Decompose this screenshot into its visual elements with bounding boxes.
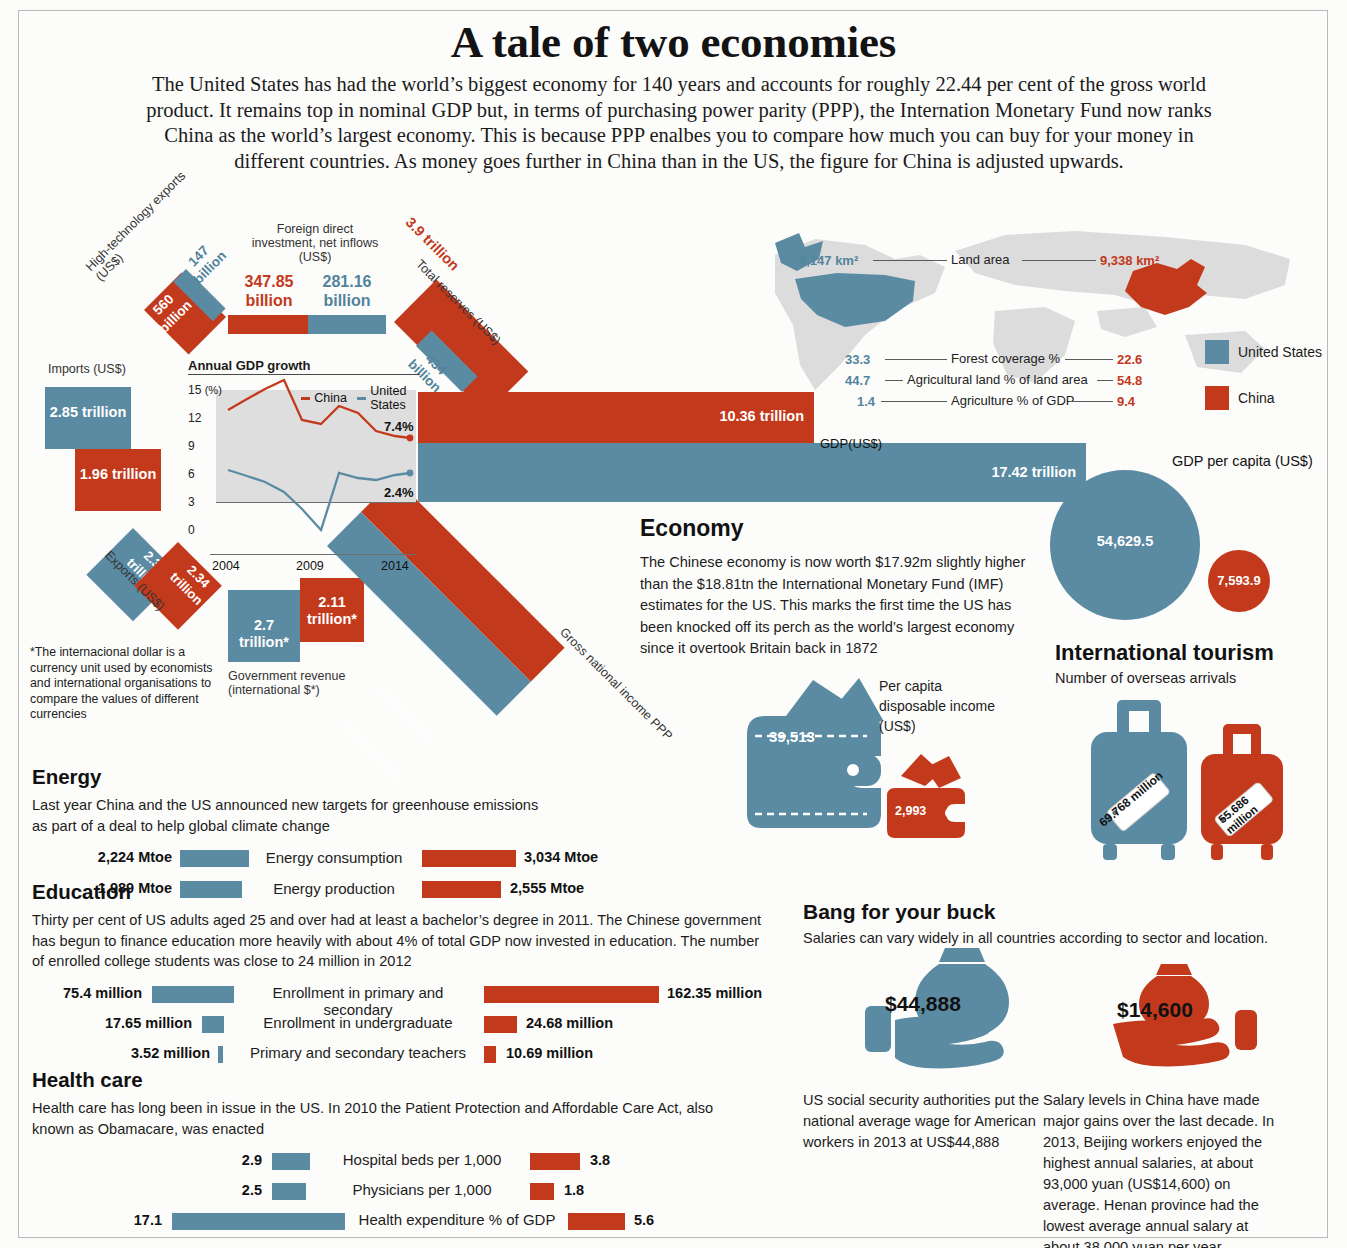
energy-body: Last year China and the US announced new… bbox=[32, 795, 552, 836]
education-row-0-china-bar bbox=[484, 986, 659, 1003]
map-stat-2-us: 44.7 bbox=[845, 373, 870, 388]
map-stat-2-label: Agricultural land % of land area bbox=[907, 372, 1088, 387]
bang-china-amount: $14,600 bbox=[1117, 998, 1193, 1022]
gdp-per-capita-us-value: 54,629.5 bbox=[1050, 533, 1200, 549]
legend-item-us: United States bbox=[1205, 340, 1322, 364]
disposable-china-value: 2,993 bbox=[895, 804, 926, 818]
bang-for-buck-section: Bang for your buck Salaries can vary wid… bbox=[803, 900, 1347, 952]
health-section: Health care Health care has long been in… bbox=[32, 1068, 732, 1235]
energy-row-0-us-bar bbox=[180, 850, 249, 867]
chart-xtick-1: 2009 bbox=[296, 559, 324, 573]
bang-lead: Salaries can vary widely in all countrie… bbox=[803, 930, 1347, 946]
map-stat-3-us: 1.4 bbox=[857, 394, 875, 409]
legend-swatch-us bbox=[357, 397, 366, 400]
energy-heading: Energy bbox=[32, 765, 552, 789]
legend-label-united-states: United States bbox=[1238, 344, 1322, 360]
fdi-us-value: 281.16 billion bbox=[311, 272, 383, 310]
infographic-page: A tale of two economies The United State… bbox=[0, 0, 1347, 1248]
fdi-us-bar bbox=[308, 315, 386, 334]
health-row-0: 2.9 Hospital beds per 1,000 3.8 bbox=[32, 1149, 732, 1175]
chart-legend-china: China bbox=[314, 391, 347, 405]
legend-swatch-china bbox=[301, 397, 310, 400]
education-row-1-us: 17.65 million bbox=[32, 1015, 192, 1031]
map-stat-0-china: 9,338 km² bbox=[1100, 253, 1159, 268]
tourism-sub: Number of overseas arrivals bbox=[1055, 670, 1345, 686]
gdp-growth-chart: Annual GDP growth 15 (%) 12 9 6 3 0 2004… bbox=[188, 362, 420, 532]
education-row-2-china: 10.69 million bbox=[506, 1045, 626, 1061]
health-row-1-china: 1.8 bbox=[564, 1182, 624, 1198]
gdp-per-capita: GDP per capita (US$) 54,629.5 7,593.9 bbox=[1040, 445, 1340, 620]
legend-item-china: China bbox=[1205, 386, 1322, 410]
chart-xtick-0: 2004 bbox=[212, 559, 240, 573]
energy-row-0-china-bar bbox=[422, 850, 516, 867]
disposable-income: 39,513 2,993 Per capita disposable incom… bbox=[725, 672, 1055, 852]
health-row-2-china-bar bbox=[568, 1213, 625, 1230]
gdp-per-capita-label: GDP per capita (US$) bbox=[1172, 453, 1313, 469]
bang-us-amount: $44,888 bbox=[885, 992, 961, 1016]
education-heading: Education bbox=[32, 880, 772, 904]
legend-label-china: China bbox=[1238, 390, 1275, 406]
chart-legend-us: United States bbox=[370, 384, 420, 412]
fdi-china-bar bbox=[228, 315, 308, 334]
health-row-1-china-bar bbox=[530, 1183, 554, 1200]
economy-body: The Chinese economy is now worth $17.92m… bbox=[640, 552, 1030, 660]
chart-endlabel-china: 7.4% bbox=[384, 419, 414, 434]
map-stat-1-label: Forest coverage % bbox=[951, 351, 1060, 366]
imports-label: Imports (US$) bbox=[48, 362, 126, 376]
chart-xtick-2: 2014 bbox=[381, 559, 409, 573]
health-row-1: 2.5 Physicians per 1,000 1.8 bbox=[32, 1179, 732, 1205]
education-row-1-china: 24.68 million bbox=[526, 1015, 646, 1031]
disposable-label: Per capita disposable income (US$) bbox=[879, 676, 1009, 736]
gdp-us-value: 17.42 trillion bbox=[418, 464, 1076, 480]
education-row-1-china-bar bbox=[484, 1016, 517, 1033]
intro-paragraph: The United States has had the world’s bi… bbox=[144, 72, 1214, 174]
health-row-2-us-bar bbox=[172, 1213, 345, 1230]
health-row-0-label: Hospital beds per 1,000 bbox=[322, 1151, 522, 1168]
bang-heading: Bang for your buck bbox=[803, 900, 1347, 924]
health-row-0-us-bar bbox=[272, 1153, 310, 1170]
page-title: A tale of two economies bbox=[0, 16, 1347, 68]
health-row-0-china-bar bbox=[530, 1153, 580, 1170]
health-row-0-us: 2.9 bbox=[162, 1152, 262, 1168]
map-stat-1-china: 22.6 bbox=[1117, 352, 1142, 367]
tourism-heading: International tourism bbox=[1055, 640, 1345, 666]
education-row-1: 17.65 million Enrollment in undergraduat… bbox=[32, 1012, 772, 1038]
disposable-us-value: 39,513 bbox=[769, 728, 815, 745]
education-row-2-label: Primary and secondary teachers bbox=[238, 1044, 478, 1061]
health-row-2: 17.1 Health expenditure % of GDP 5.6 bbox=[32, 1209, 732, 1235]
map-stat-0-label: Land area bbox=[951, 252, 1010, 267]
education-row-0-us-bar bbox=[152, 986, 234, 1003]
health-row-1-us: 2.5 bbox=[162, 1182, 262, 1198]
country-legend: United States China bbox=[1205, 340, 1322, 432]
gdp-per-capita-china-value: 7,593.9 bbox=[1203, 573, 1275, 588]
health-body: Health care has long been in issue in th… bbox=[32, 1098, 732, 1139]
health-row-2-us: 17.1 bbox=[62, 1212, 162, 1228]
education-row-0-us: 75.4 million bbox=[32, 985, 142, 1001]
education-section: Education Thirty per cent of US adults a… bbox=[32, 880, 772, 1068]
map-stat-1-us: 33.3 bbox=[845, 352, 870, 367]
gdp-label: GDP(US$) bbox=[820, 436, 882, 451]
education-row-1-us-bar bbox=[202, 1016, 224, 1033]
economy-heading: Economy bbox=[640, 515, 1030, 542]
govrev-us-value: 2.7 trillion* bbox=[228, 617, 300, 651]
imports-us-value: 2.85 trillion bbox=[45, 404, 131, 421]
health-heading: Health care bbox=[32, 1068, 732, 1092]
bang-us-text: US social security authorities put the n… bbox=[803, 1090, 1041, 1153]
china-wallet-icon bbox=[887, 754, 965, 838]
govrev-label: Government revenue (international $*) bbox=[228, 669, 368, 697]
us-suitcase-icon bbox=[1091, 700, 1187, 860]
education-row-2-us: 3.52 million bbox=[32, 1045, 210, 1061]
map-stat-3-label: Agriculture % of GDP bbox=[951, 393, 1075, 408]
education-row-0: 75.4 million Enrollment in primary and s… bbox=[32, 982, 772, 1008]
imports-china-value: 1.96 trillion bbox=[75, 466, 161, 483]
chart-ylabel: (%) bbox=[205, 384, 222, 396]
energy-row-0-china: 3,034 Mtoe bbox=[524, 849, 634, 865]
map-stat-2-china: 54.8 bbox=[1117, 373, 1142, 388]
health-row-1-label: Physicians per 1,000 bbox=[322, 1181, 522, 1198]
energy-row-0: 2,224 Mtoe Energy consumption 3,034 Mtoe bbox=[32, 846, 552, 872]
map-stat-3-china: 9.4 bbox=[1117, 394, 1135, 409]
bang-china-text: Salary levels in China have made major g… bbox=[1043, 1090, 1281, 1248]
economy-section: Economy The Chinese economy is now worth… bbox=[640, 515, 1030, 660]
education-row-0-china: 162.35 million bbox=[667, 985, 787, 1001]
health-row-2-china: 5.6 bbox=[634, 1212, 694, 1228]
